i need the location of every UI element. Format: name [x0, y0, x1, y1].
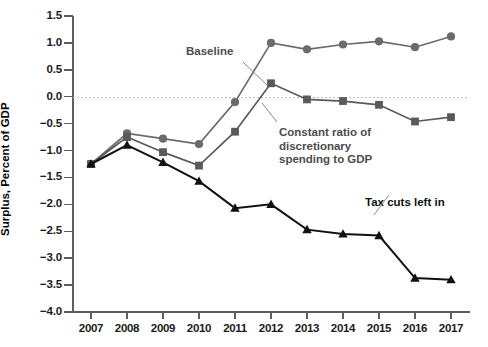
surplus-percent-of-gdp-line-chart: Surplus, Percent of GDP 1.51.00.50.0−0.5… — [0, 0, 488, 347]
x-axis-tick-mark — [270, 311, 271, 319]
series-line — [91, 83, 451, 165]
data-point-marker — [158, 158, 167, 166]
x-axis-tick-mark — [198, 311, 199, 319]
x-axis-tick-mark — [126, 311, 127, 319]
data-point-marker — [123, 133, 131, 141]
series-2 — [87, 79, 455, 169]
data-point-marker — [411, 118, 419, 126]
y-axis-tick-label: −4.0 — [14, 305, 62, 317]
data-point-marker — [447, 32, 455, 40]
data-point-marker — [374, 231, 383, 239]
annotation-leader-line — [243, 62, 268, 86]
data-point-marker — [194, 176, 203, 184]
data-point-marker — [231, 128, 239, 136]
series-line — [91, 145, 451, 280]
x-axis-tick-mark — [342, 311, 343, 319]
y-axis-tick-label: −3.5 — [14, 278, 62, 290]
y-axis-tick-mark — [64, 69, 73, 70]
zero-line — [73, 97, 469, 98]
data-point-marker — [122, 140, 131, 148]
data-point-marker — [231, 98, 239, 106]
data-point-marker — [159, 135, 167, 143]
series-line — [91, 36, 451, 164]
series-3 — [86, 140, 455, 283]
data-point-marker — [338, 229, 347, 237]
annotation-label-3: Tax cuts left in — [365, 196, 445, 210]
series-1 — [87, 32, 455, 168]
y-axis-tick-mark — [64, 15, 73, 16]
y-axis-tick-label: −1.5 — [14, 170, 62, 182]
data-point-marker — [123, 129, 131, 137]
y-axis-tick-mark — [64, 257, 73, 258]
data-point-marker — [195, 140, 203, 148]
y-axis-tick-mark — [64, 231, 73, 232]
x-axis-tick-mark — [450, 311, 451, 319]
x-axis-tick-mark — [234, 311, 235, 319]
annotation-label-1: Baseline — [186, 45, 233, 59]
y-axis-tick-mark — [64, 96, 73, 97]
data-point-marker — [87, 160, 95, 168]
data-point-marker — [195, 162, 203, 170]
y-axis-tick-mark — [64, 284, 73, 285]
y-axis-tick-mark — [64, 150, 73, 151]
data-point-marker — [410, 273, 419, 281]
data-point-marker — [375, 101, 383, 109]
data-point-marker — [302, 225, 311, 233]
data-point-marker — [266, 200, 275, 208]
y-axis-tick-mark — [64, 42, 73, 43]
y-axis-tick-label: −3.0 — [14, 251, 62, 263]
data-point-marker — [159, 148, 167, 156]
data-point-marker — [230, 203, 239, 211]
data-point-marker — [87, 160, 95, 168]
y-axis-tick-label: 1.5 — [14, 9, 62, 21]
x-axis-tick-mark — [162, 311, 163, 319]
x-axis-tick-mark — [378, 311, 379, 319]
data-point-marker — [267, 39, 275, 47]
data-point-marker — [86, 159, 95, 167]
y-axis-tick-label: −2.0 — [14, 197, 62, 209]
x-axis-tick-mark — [90, 311, 91, 319]
y-axis-tick-mark — [64, 123, 73, 124]
data-point-marker — [411, 43, 419, 51]
y-axis-title: Surplus, Percent of GDP — [0, 102, 11, 236]
data-point-marker — [339, 97, 347, 105]
y-axis-tick-label: 0.5 — [14, 63, 62, 75]
y-axis-tick-label: 1.0 — [14, 36, 62, 48]
y-axis-tick-mark — [64, 311, 73, 312]
y-axis-tick-label: −1.0 — [14, 144, 62, 156]
y-axis-line — [72, 16, 74, 313]
data-point-marker — [303, 45, 311, 53]
data-point-marker — [447, 113, 455, 121]
y-axis-tick-label: −0.5 — [14, 117, 62, 129]
data-point-marker — [267, 79, 275, 87]
x-axis-tick-mark — [306, 311, 307, 319]
x-axis-tick-label: 2017 — [429, 322, 473, 334]
y-axis-tick-mark — [64, 204, 73, 205]
data-point-marker — [339, 40, 347, 48]
y-axis-tick-label: 0.0 — [14, 90, 62, 102]
annotation-leader-line — [262, 103, 277, 122]
x-axis-tick-mark — [414, 311, 415, 319]
annotation-label-2: Constant ratio of discretionary spending… — [279, 126, 372, 167]
y-axis-tick-mark — [64, 177, 73, 178]
data-point-marker — [375, 37, 383, 45]
data-point-marker — [446, 275, 455, 283]
y-axis-tick-label: −2.5 — [14, 224, 62, 236]
